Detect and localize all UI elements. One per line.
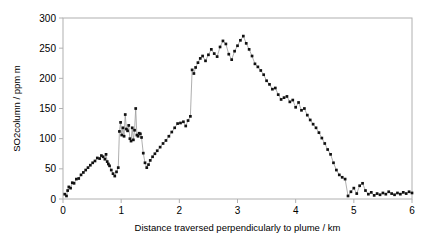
- data-point: [154, 152, 157, 155]
- data-point: [315, 126, 318, 129]
- data-point: [182, 120, 185, 123]
- data-point: [280, 98, 283, 101]
- data-point: [162, 142, 165, 145]
- data-point: [84, 169, 87, 172]
- y-tick-label: 50: [45, 163, 57, 174]
- data-point: [193, 72, 196, 75]
- data-point: [361, 182, 364, 185]
- plot-svg: 0123456 050100150200250300 Distance trav…: [0, 0, 426, 244]
- data-point: [373, 194, 376, 197]
- data-point: [108, 164, 111, 167]
- data-point: [151, 155, 154, 158]
- x-tick-label: 5: [351, 205, 357, 216]
- data-point: [297, 101, 300, 104]
- data-point: [259, 69, 262, 72]
- data-point: [122, 126, 125, 129]
- data-point: [82, 171, 85, 174]
- data-point: [87, 166, 90, 169]
- y-tick-label: 150: [39, 103, 56, 114]
- data-point: [65, 195, 68, 198]
- data-point: [239, 39, 242, 42]
- data-point: [179, 122, 182, 125]
- data-point: [402, 191, 405, 194]
- data-point: [134, 107, 137, 110]
- data-point: [251, 55, 254, 58]
- data-point: [75, 178, 78, 181]
- data-point: [184, 125, 187, 128]
- data-point: [73, 182, 76, 185]
- x-tick-label: 4: [293, 205, 299, 216]
- y-tick-label: 250: [39, 43, 56, 54]
- y-tick-label: 300: [39, 13, 56, 24]
- data-point: [355, 192, 358, 195]
- data-point: [132, 139, 135, 142]
- data-point: [104, 158, 107, 161]
- data-point: [127, 124, 130, 127]
- x-axis-title: Distance traversed perpendicularly to pl…: [135, 222, 341, 233]
- chart-figure: 0123456 050100150200250300 Distance trav…: [0, 0, 426, 244]
- data-point: [411, 192, 414, 195]
- data-point: [245, 42, 248, 45]
- data-point: [147, 163, 150, 166]
- data-point: [347, 195, 350, 198]
- data-point: [254, 63, 257, 66]
- data-point: [332, 161, 335, 164]
- data-point: [236, 44, 239, 47]
- data-point: [329, 153, 332, 156]
- data-point: [170, 131, 173, 134]
- data-point: [262, 73, 265, 76]
- data-point: [118, 130, 121, 133]
- data-point: [165, 139, 168, 142]
- data-point: [113, 175, 116, 178]
- data-point: [176, 122, 179, 125]
- data-point: [387, 190, 390, 193]
- data-point: [133, 129, 136, 132]
- data-point: [106, 160, 109, 163]
- data-point: [408, 190, 411, 193]
- data-point: [274, 87, 277, 90]
- y-tick-label: 100: [39, 133, 56, 144]
- y-axis-title: SO2column / ppm m: [11, 65, 22, 152]
- data-point: [265, 79, 268, 82]
- data-point: [309, 119, 312, 122]
- data-point: [405, 192, 408, 195]
- data-point: [189, 115, 192, 118]
- data-point: [396, 192, 399, 195]
- data-point: [156, 149, 159, 152]
- data-point: [129, 137, 132, 140]
- x-tick-label: 6: [409, 205, 415, 216]
- data-point: [110, 169, 113, 172]
- data-point: [286, 95, 289, 98]
- data-point: [277, 93, 280, 96]
- x-tick-label: 1: [118, 205, 124, 216]
- data-point: [117, 166, 120, 169]
- data-point: [352, 187, 355, 190]
- data-point: [326, 148, 329, 151]
- x-tick-label: 0: [60, 205, 66, 216]
- data-point: [131, 126, 134, 129]
- data-point: [376, 192, 379, 195]
- data-point: [145, 166, 148, 169]
- data-point: [283, 96, 286, 99]
- data-point: [335, 169, 338, 172]
- data-point: [271, 88, 274, 91]
- data-point: [94, 160, 97, 163]
- data-point: [242, 35, 245, 38]
- data-point: [230, 58, 233, 61]
- data-point: [207, 53, 210, 56]
- data-point: [149, 159, 152, 162]
- data-point: [112, 172, 115, 175]
- data-point: [115, 171, 118, 174]
- x-tick-label: 2: [177, 205, 183, 216]
- data-point: [367, 193, 370, 196]
- data-point: [91, 161, 94, 164]
- data-point: [318, 131, 321, 134]
- data-point: [102, 155, 105, 158]
- data-point: [248, 48, 251, 51]
- data-point: [257, 66, 260, 69]
- data-point: [213, 52, 216, 55]
- data-point: [124, 113, 127, 116]
- data-point: [225, 43, 228, 46]
- data-point: [268, 83, 271, 86]
- data-point: [98, 157, 101, 160]
